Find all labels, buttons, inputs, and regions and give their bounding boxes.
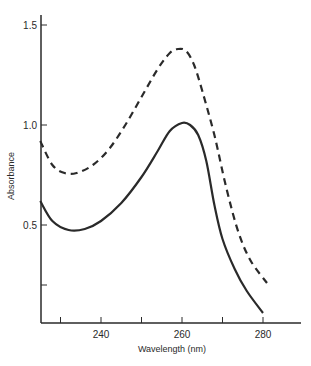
dashed-curve <box>40 49 267 283</box>
x-tick-label: 240 <box>93 329 110 340</box>
absorbance-chart: 240260280 0.51.01.5 Wavelength (nm) Abso… <box>0 0 311 366</box>
x-axis-ticks: 240260280 <box>61 317 272 340</box>
x-tick-label: 280 <box>255 329 272 340</box>
y-tick-label: 1.0 <box>23 120 37 131</box>
y-axis-title: Absorbance <box>6 152 16 200</box>
solid-curve <box>40 123 263 313</box>
y-axis-ticks: 0.51.01.5 <box>23 20 47 286</box>
y-tick-label: 1.5 <box>23 20 37 31</box>
y-tick-label: 0.5 <box>23 220 37 231</box>
x-tick-label: 260 <box>174 329 191 340</box>
axes <box>41 15 301 323</box>
x-axis-title: Wavelength (nm) <box>138 344 206 354</box>
data-series <box>40 49 267 313</box>
